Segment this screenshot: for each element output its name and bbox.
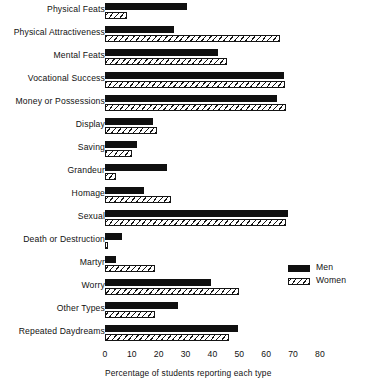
- bar-women: [105, 334, 229, 341]
- x-tick-label: 50: [234, 349, 244, 359]
- category-label: Vocational Success: [0, 73, 105, 83]
- x-tick-label: 20: [154, 349, 164, 359]
- bar-men: [105, 141, 137, 148]
- legend-swatch-men-icon: [288, 265, 310, 272]
- bar-men: [105, 26, 174, 33]
- bar-men: [105, 95, 277, 102]
- bar-women: [105, 242, 108, 249]
- bar-men: [105, 279, 211, 286]
- x-axis-ticks: 01020304050607080: [0, 349, 369, 363]
- category-label: Money or Possessions: [0, 96, 105, 106]
- bar-men: [105, 233, 122, 240]
- category-label: Other Types: [0, 303, 105, 313]
- legend-swatch-women-icon: [288, 278, 310, 285]
- x-tick-label: 10: [127, 349, 137, 359]
- bar-men: [105, 3, 187, 10]
- bar-row: Homage: [0, 186, 369, 209]
- category-label: Physical Attractiveness: [0, 27, 105, 37]
- category-label: Martyr: [0, 257, 105, 267]
- legend-item-women: Women: [288, 275, 368, 288]
- bar-row: Saving: [0, 140, 369, 163]
- bar-women: [105, 35, 280, 42]
- plot-area: Physical FeatsPhysical AttractivenessMen…: [0, 0, 369, 389]
- x-tick-label: 40: [208, 349, 218, 359]
- bar-women: [105, 311, 155, 318]
- bar-row: Repeated Daydreams: [0, 324, 369, 347]
- x-tick-label: 80: [315, 349, 325, 359]
- bar-row: Other Types: [0, 301, 369, 324]
- x-tick-label: 60: [261, 349, 271, 359]
- category-label: Display: [0, 119, 105, 129]
- bar-women: [105, 219, 286, 226]
- bar-men: [105, 118, 153, 125]
- category-label: Grandeur: [0, 165, 105, 175]
- category-label: Saving: [0, 142, 105, 152]
- bar-women: [105, 81, 285, 88]
- bar-women: [105, 150, 132, 157]
- bar-women: [105, 58, 227, 65]
- category-label: Repeated Daydreams: [0, 326, 105, 336]
- bar-women: [105, 12, 127, 19]
- x-tick-label: 70: [288, 349, 298, 359]
- bar-row: Physical Attractiveness: [0, 25, 369, 48]
- bar-men: [105, 187, 144, 194]
- bar-men: [105, 164, 167, 171]
- bar-row: Mental Feats: [0, 48, 369, 71]
- bar-women: [105, 127, 157, 134]
- bar-men: [105, 325, 238, 332]
- legend-item-men: Men: [288, 262, 368, 275]
- bar-women: [105, 288, 239, 295]
- category-label: Mental Feats: [0, 50, 105, 60]
- bar-row: Physical Feats: [0, 2, 369, 25]
- bar-row: Death or Destruction: [0, 232, 369, 255]
- legend-label-women: Women: [316, 275, 346, 285]
- bar-women: [105, 173, 116, 180]
- bar-men: [105, 210, 288, 217]
- category-label: Physical Feats: [0, 4, 105, 14]
- chart-container: Physical FeatsPhysical AttractivenessMen…: [0, 0, 369, 389]
- bar-men: [105, 256, 116, 263]
- bar-row: Grandeur: [0, 163, 369, 186]
- bar-women: [105, 265, 155, 272]
- bar-women: [105, 104, 286, 111]
- x-axis-label: Percentage of students reporting each ty…: [105, 368, 271, 378]
- bar-row: Display: [0, 117, 369, 140]
- x-tick-label: 30: [181, 349, 191, 359]
- category-label: Sexual: [0, 211, 105, 221]
- category-label: Death or Destruction: [0, 234, 105, 244]
- category-label: Worry: [0, 280, 105, 290]
- bar-women: [105, 196, 171, 203]
- chart-legend: Men Women: [288, 262, 368, 288]
- category-label: Homage: [0, 188, 105, 198]
- bar-row: Sexual: [0, 209, 369, 232]
- bar-rows: Physical FeatsPhysical AttractivenessMen…: [0, 2, 369, 347]
- bar-row: Money or Possessions: [0, 94, 369, 117]
- bar-men: [105, 72, 284, 79]
- legend-label-men: Men: [316, 262, 333, 272]
- bar-row: Vocational Success: [0, 71, 369, 94]
- x-tick-label: 0: [103, 349, 108, 359]
- bar-men: [105, 302, 178, 309]
- bar-men: [105, 49, 218, 56]
